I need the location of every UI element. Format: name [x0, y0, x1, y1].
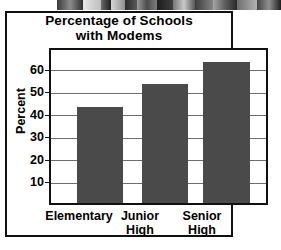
photo-fragment: [57, 0, 281, 10]
x-category-label-junior-high: Junior High: [112, 209, 168, 237]
bar-junior-high: [142, 84, 188, 203]
y-tick-label-20: 20: [16, 154, 44, 166]
bar-elementary: [77, 107, 123, 203]
chart-title-line1: Percentage of Schools: [45, 13, 193, 28]
y-tick-label-30: 30: [16, 131, 44, 143]
bar-senior-high: [203, 62, 250, 203]
x-category-senior-high-line2: High: [174, 223, 230, 237]
y-tick-label-10: 10: [16, 176, 44, 188]
x-category-label-elementary: Elementary: [41, 209, 117, 223]
x-category-junior-high-line2: High: [112, 223, 168, 237]
x-category-label-senior-high: Senior High: [174, 209, 230, 237]
plot-area: [49, 48, 268, 205]
x-category-elementary-line1: Elementary: [41, 209, 117, 223]
y-tick-label-50: 50: [16, 86, 44, 98]
y-tick-label-40: 40: [16, 109, 44, 121]
y-tick-label-60: 60: [16, 64, 44, 76]
x-category-junior-high-line1: Junior: [112, 209, 168, 223]
x-category-senior-high-line1: Senior: [174, 209, 230, 223]
chart-page: Percentage of Schools with Modems Percen…: [0, 0, 281, 250]
chart-title: Percentage of Schools with Modems: [5, 13, 233, 43]
chart-title-line2: with Modems: [5, 28, 233, 43]
